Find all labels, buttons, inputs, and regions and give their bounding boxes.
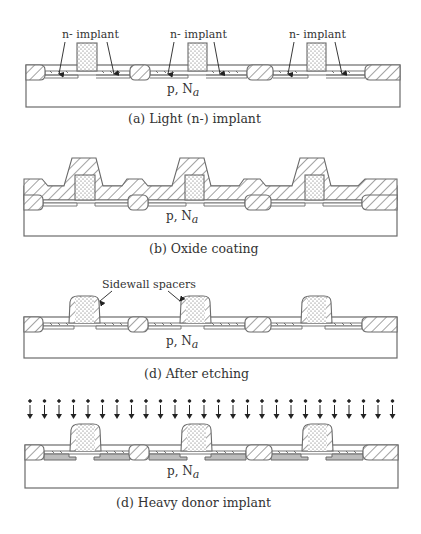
mosfet-ldd-process-diagram: n- implant n- implant n- implant p, Na (… — [0, 0, 421, 534]
caption-b: (b) Oxide coating — [149, 241, 258, 256]
field-oxide — [247, 65, 273, 80]
panel-c: Sidewall spacers p, Na (d) After etching — [24, 278, 397, 381]
caption-c: (d) After etching — [144, 366, 249, 381]
gate-with-spacers — [180, 296, 211, 323]
caption-a: (a) Light (n-) implant — [128, 111, 261, 126]
panel-b: p, Na (b) Oxide coating — [24, 158, 397, 256]
n-implant-label: n- implant — [289, 28, 346, 41]
field-oxide — [365, 65, 400, 80]
gate-with-spacers — [301, 296, 332, 323]
gate-with-spacers — [181, 424, 212, 451]
n-plus-region — [205, 454, 246, 460]
field-oxide — [26, 65, 45, 80]
gate-with-spacers — [69, 296, 100, 323]
polysilicon-gate — [307, 43, 326, 71]
panel-a: n- implant n- implant n- implant p, Na (… — [26, 28, 400, 126]
gate-with-spacers — [70, 424, 101, 451]
panel-d: p, Na (d) Heavy donor implant — [25, 400, 398, 510]
n-implant-label: n- implant — [62, 28, 119, 41]
field-oxide — [130, 65, 150, 80]
polysilicon-gate — [188, 43, 207, 71]
gate-with-spacers — [302, 424, 333, 451]
donor-ion-arrows — [27, 400, 396, 419]
sidewall-spacers-label: Sidewall spacers — [102, 278, 196, 291]
n-implant-label: n- implant — [170, 28, 227, 41]
annotation-arrows — [100, 291, 180, 301]
polysilicon-gate — [77, 43, 97, 71]
caption-d: (d) Heavy donor implant — [116, 495, 271, 510]
n-plus-region — [326, 454, 363, 460]
